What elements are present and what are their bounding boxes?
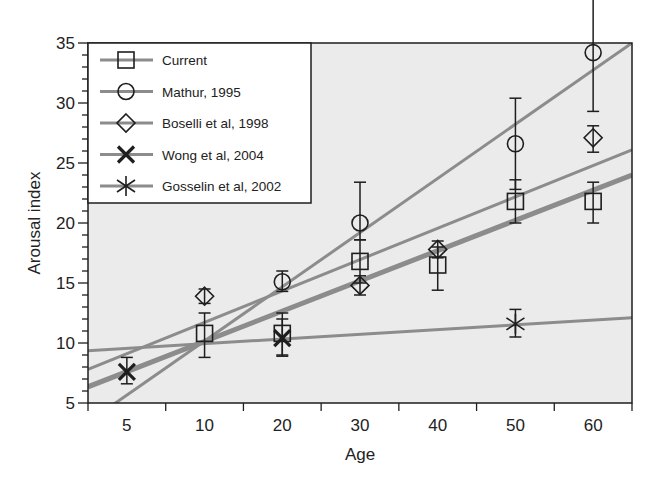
y-tick-label: 10 [56, 334, 75, 353]
legend: CurrentMathur, 1995Boselli et al, 1998Wo… [88, 43, 311, 203]
legend-label: Mathur, 1995 [162, 85, 241, 100]
y-tick-label: 15 [56, 274, 75, 293]
x-tick-label: 30 [351, 416, 370, 435]
y-tick-label: 35 [56, 34, 75, 53]
x-tick-label: 10 [195, 416, 214, 435]
x-axis-label: Age [345, 445, 375, 464]
y-tick-label: 5 [66, 394, 75, 413]
y-axis-label: Arousal index [25, 171, 44, 275]
x-tick-label: 5 [122, 416, 131, 435]
x-tick-label: 60 [584, 416, 603, 435]
y-tick-label: 25 [56, 154, 75, 173]
legend-item-mathur-1995: Mathur, 1995 [100, 84, 241, 100]
x-tick-label: 20 [273, 416, 292, 435]
y-tick-label: 20 [56, 214, 75, 233]
y-tick-label: 30 [56, 94, 75, 113]
x-tick-label: 50 [506, 416, 525, 435]
x-tick-label: 40 [428, 416, 447, 435]
legend-label: Wong et al, 2004 [162, 148, 264, 163]
legend-label: Boselli et al, 1998 [162, 116, 269, 131]
chart: 51015202530355102030405060 Arousal index… [0, 0, 651, 485]
legend-label: Current [162, 53, 207, 68]
legend-label: Gosselin et al, 2002 [162, 179, 281, 194]
